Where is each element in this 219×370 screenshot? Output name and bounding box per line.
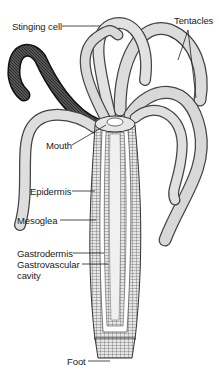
label-epidermis: Epidermis [30, 187, 71, 197]
label-gastrovascular-cavity-line2: cavity [17, 271, 41, 281]
hydra-illustration [0, 0, 219, 370]
body-column [90, 116, 141, 358]
label-tentacles: Tentacles [174, 16, 213, 26]
label-foot: Foot [67, 357, 86, 367]
label-gastrovascular-cavity-line1: Gastrovascular [17, 260, 79, 270]
label-stinging-cell: Stinging cell [12, 22, 62, 32]
label-mouth: Mouth [46, 141, 72, 151]
hydra-diagram: Stinging cell Tentacles Mouth Epidermis … [0, 0, 219, 370]
label-mesoglea: Mesoglea [17, 216, 57, 226]
label-gastrodermis: Gastrodermis [17, 249, 73, 259]
